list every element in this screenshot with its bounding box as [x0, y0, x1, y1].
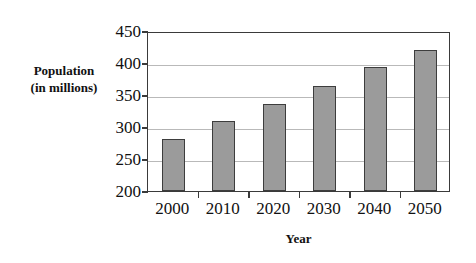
x-tick-mark — [299, 192, 301, 198]
x-tick-mark — [349, 192, 351, 198]
x-axis-title: Year — [147, 231, 450, 247]
population-bar-chart-figure: Population (in millions) 450400350300250… — [0, 0, 476, 263]
x-tick-mark — [248, 192, 250, 198]
x-axis: 200020102020203020402050 — [0, 0, 476, 263]
x-tick-label: 2030 — [296, 199, 352, 218]
x-tick-label: 2040 — [346, 199, 402, 218]
x-tick-label: 2050 — [397, 199, 453, 218]
x-tick-label: 2000 — [144, 199, 200, 218]
x-tick-label: 2010 — [195, 199, 251, 218]
x-tick-label: 2020 — [245, 199, 301, 218]
x-tick-mark — [198, 192, 200, 198]
x-tick-mark — [400, 192, 402, 198]
